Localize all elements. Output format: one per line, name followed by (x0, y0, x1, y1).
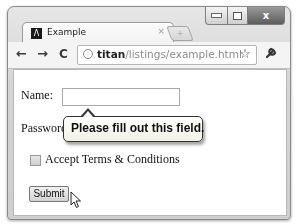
tab-example[interactable]: Λ Example × (22, 22, 174, 43)
name-label: Name: (21, 88, 53, 103)
submit-button[interactable]: Submit (29, 186, 69, 202)
accept-terms-checkbox[interactable] (30, 155, 41, 166)
plus-icon: + (170, 27, 190, 40)
name-input[interactable] (62, 88, 180, 106)
forward-arrow-icon[interactable]: → (37, 46, 48, 62)
close-window-button[interactable]: x (248, 7, 285, 25)
reload-icon[interactable]: C (59, 46, 68, 62)
mouse-cursor-icon (70, 191, 82, 209)
page-content: Name: Password: Accept Terms & Condition… (13, 69, 287, 216)
browser-window: x Λ Example × + ← → C titan/listings/exa… (7, 6, 291, 220)
url-path: /listings/example.html (125, 48, 242, 60)
window-controls: x (205, 7, 285, 24)
wrench-icon[interactable] (265, 46, 278, 62)
minimize-icon (211, 13, 222, 18)
validation-message: Please fill out this field. (71, 121, 204, 135)
close-icon: x (263, 10, 269, 21)
accept-terms-label: Accept Terms & Conditions (45, 152, 180, 167)
minimize-button[interactable] (205, 7, 228, 25)
bookmark-star-icon[interactable]: ☆ (239, 46, 251, 61)
globe-icon (83, 49, 93, 59)
favicon-icon: Λ (31, 28, 42, 39)
browser-toolbar: ← → C titan/listings/example.html ☆ (8, 42, 290, 69)
maximize-icon (233, 12, 242, 20)
wrench-icon-svg (265, 46, 278, 59)
new-tab-button[interactable]: + (166, 26, 193, 41)
address-bar[interactable]: titan/listings/example.html ☆ (77, 45, 257, 65)
url-host: titan (97, 48, 125, 60)
url-text: titan/listings/example.html (97, 48, 242, 60)
tab-title: Example (47, 27, 86, 37)
back-arrow-icon[interactable]: ← (16, 46, 27, 62)
validation-tooltip: Please fill out this field. (63, 116, 203, 142)
maximize-button[interactable] (228, 7, 248, 25)
tab-close-icon[interactable]: × (157, 26, 165, 36)
